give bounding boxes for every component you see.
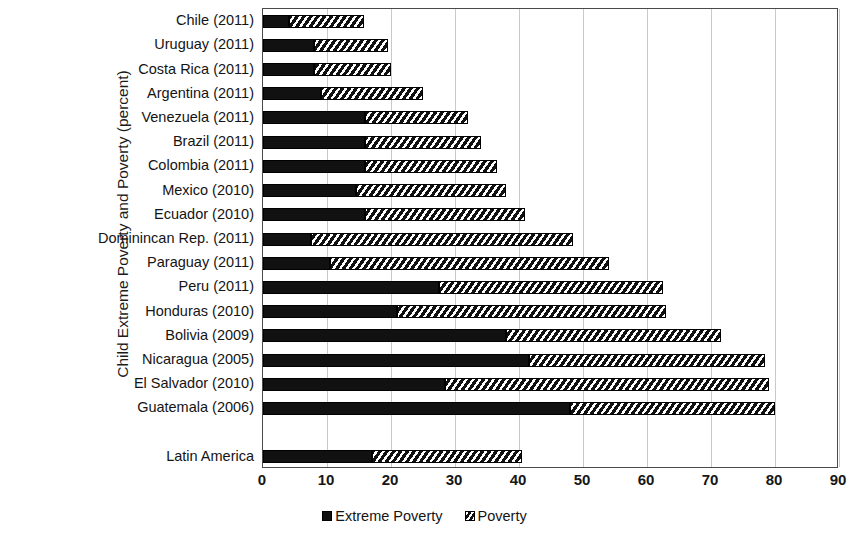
bar-segment-extreme-poverty (263, 450, 372, 463)
bar-segment-poverty (445, 378, 768, 391)
category-label: Honduras (2010) (26, 304, 254, 318)
x-axis-tick: 60 (638, 471, 655, 488)
bar-segment-poverty (365, 136, 480, 149)
legend-label-extreme-poverty: Extreme Poverty (335, 508, 442, 524)
bar-row (263, 450, 839, 463)
legend-item-extreme-poverty: Extreme Poverty (322, 508, 442, 524)
category-label: Mexico (2010) (26, 183, 254, 197)
x-axis-tick: 90 (830, 471, 847, 488)
legend-swatch-extreme-poverty-icon (322, 511, 332, 521)
x-axis-tick-labels: 0102030405060708090 (262, 471, 838, 493)
bar-row (263, 378, 839, 391)
bar-segment-extreme-poverty (263, 111, 365, 124)
bar-segment-extreme-poverty (263, 281, 439, 294)
bar-segment-extreme-poverty (263, 63, 314, 76)
bar-row (263, 233, 839, 246)
bar-segment-poverty (330, 257, 608, 270)
chart-root: Child Extreme Poverty and Poverty (perce… (0, 0, 849, 541)
bar-segment-extreme-poverty (263, 208, 365, 221)
category-label: Latin America (26, 449, 254, 463)
bar-segment-poverty (365, 111, 467, 124)
bar-segment-poverty (397, 305, 666, 318)
category-label: Venezuela (2011) (26, 110, 254, 124)
bar-row (263, 184, 839, 197)
x-axis-tick: 80 (766, 471, 783, 488)
category-label: Costa Rica (2011) (26, 62, 254, 76)
bar-row (263, 354, 839, 367)
bar-segment-poverty (365, 160, 496, 173)
bar-segment-extreme-poverty (263, 15, 289, 28)
category-label: Chile (2011) (26, 13, 254, 27)
chart-legend: Extreme Poverty Poverty (0, 508, 849, 524)
bar-segment-poverty (506, 329, 720, 342)
bar-row (263, 329, 839, 342)
category-label: Uruguay (2011) (26, 37, 254, 51)
plot-area (262, 8, 838, 468)
category-label: Paraguay (2011) (26, 255, 254, 269)
x-axis-tick: 30 (446, 471, 463, 488)
bar-row (263, 305, 839, 318)
bar-segment-extreme-poverty (263, 136, 365, 149)
bar-segment-extreme-poverty (263, 305, 397, 318)
bar-segment-poverty (311, 233, 573, 246)
bar-segment-poverty (314, 39, 388, 52)
bar-row (263, 63, 839, 76)
bar-segment-extreme-poverty (263, 184, 356, 197)
category-label: Ecuador (2010) (26, 207, 254, 221)
bar-segment-extreme-poverty (263, 160, 365, 173)
category-label: Brazil (2011) (26, 134, 254, 148)
bar-segment-poverty (365, 208, 525, 221)
category-label: Colombia (2011) (26, 158, 254, 172)
category-label: Dominincan Rep. (2011) (26, 231, 254, 245)
bar-row (263, 402, 839, 415)
category-label-column: Chile (2011)Uruguay (2011)Costa Rica (20… (26, 8, 254, 468)
bar-segment-extreme-poverty (263, 87, 321, 100)
bar-segment-extreme-poverty (263, 378, 445, 391)
bar-segment-poverty (321, 87, 423, 100)
bar-row (263, 208, 839, 221)
bar-segment-poverty (529, 354, 766, 367)
x-axis-tick: 0 (258, 471, 266, 488)
category-label: El Salvador (2010) (26, 376, 254, 390)
bar-row (263, 87, 839, 100)
bar-row (263, 281, 839, 294)
category-label: Nicaragua (2005) (26, 352, 254, 366)
x-axis-tick: 50 (574, 471, 591, 488)
category-label: Argentina (2011) (26, 86, 254, 100)
category-label: Peru (2011) (26, 279, 254, 293)
x-axis-tick: 10 (318, 471, 335, 488)
bar-segment-poverty (570, 402, 775, 415)
x-axis-tick: 40 (510, 471, 527, 488)
gridline (839, 9, 840, 467)
bar-row (263, 15, 839, 28)
bar-segment-extreme-poverty (263, 39, 314, 52)
legend-label-poverty: Poverty (478, 508, 527, 524)
bar-segment-extreme-poverty (263, 257, 330, 270)
bar-segment-extreme-poverty (263, 402, 570, 415)
category-label: Bolivia (2009) (26, 328, 254, 342)
bar-row (263, 39, 839, 52)
bar-segment-extreme-poverty (263, 233, 311, 246)
legend-item-poverty: Poverty (465, 508, 527, 524)
category-label: Guatemala (2006) (26, 400, 254, 414)
bar-row (263, 111, 839, 124)
bar-segment-poverty (372, 450, 522, 463)
bar-row (263, 160, 839, 173)
legend-swatch-poverty-icon (465, 511, 475, 521)
bar-segment-poverty (314, 63, 391, 76)
bar-segment-poverty (289, 15, 365, 28)
x-axis-tick: 20 (382, 471, 399, 488)
bar-segment-poverty (439, 281, 663, 294)
bar-row (263, 257, 839, 270)
bar-segment-poverty (356, 184, 506, 197)
x-axis-tick: 70 (702, 471, 719, 488)
bar-segment-extreme-poverty (263, 329, 506, 342)
bar-row (263, 136, 839, 149)
bar-segment-extreme-poverty (263, 354, 529, 367)
